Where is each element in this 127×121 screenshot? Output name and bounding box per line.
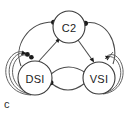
terminal-dot-dsi-self-2 bbox=[29, 55, 34, 60]
edge-vsi-to-dsi-lower bbox=[51, 83, 85, 90]
node-vsi-label: VSI bbox=[90, 73, 108, 85]
terminal-dot-dsi-self-1 bbox=[25, 52, 30, 57]
node-dsi-label: DSI bbox=[26, 73, 45, 85]
circuit-diagram: C2 DSI VSI bbox=[0, 0, 127, 121]
edge-c2-to-vsi-straight bbox=[78, 40, 93, 61]
edge-c2-to-vsi-arc bbox=[86, 23, 115, 64]
edge-dsi-to-vsi-upper bbox=[51, 67, 86, 74]
edge-dsi-to-c2-arc bbox=[19, 22, 53, 66]
figure-panel: C2 DSI VSI c bbox=[0, 0, 127, 121]
edge-dsi-to-c2-straight bbox=[39, 39, 59, 61]
node-c2[interactable]: C2 bbox=[53, 11, 85, 43]
node-c2-label: C2 bbox=[62, 22, 76, 34]
terminal-arrow-c2-to-vsi bbox=[90, 57, 95, 62]
node-vsi[interactable]: VSI bbox=[83, 62, 115, 94]
node-dsi[interactable]: DSI bbox=[18, 61, 52, 95]
panel-letter: c bbox=[4, 99, 10, 110]
